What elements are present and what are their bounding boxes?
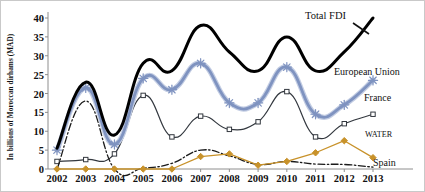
marker-diamond <box>197 153 203 159</box>
series-water <box>54 137 376 172</box>
marker-square <box>84 157 88 161</box>
plot-area: Total FDIEuropean UnionFranceWATERSpain <box>1 1 425 192</box>
marker-diamond <box>169 166 175 172</box>
marker-square <box>371 112 375 116</box>
marker-square <box>112 152 116 156</box>
series-label-water: WATER <box>365 130 393 139</box>
series-label-european-union: European Union <box>334 66 400 77</box>
marker-diamond <box>284 158 290 164</box>
marker-diamond <box>312 150 318 156</box>
series-label-total-fdi: Total FDI <box>305 10 346 21</box>
marker-diamond <box>83 166 89 172</box>
marker-square <box>256 120 260 124</box>
marker-diamond <box>255 162 261 168</box>
marker-square <box>170 135 174 139</box>
series-label-spain: Spain <box>373 157 396 168</box>
marker-square <box>198 114 202 118</box>
marker-square <box>227 127 231 131</box>
marker-diamond <box>341 137 347 143</box>
marker-square <box>285 89 289 93</box>
series-label-france: France <box>364 92 392 103</box>
marker-diamond <box>54 166 60 172</box>
marker-square <box>141 93 145 97</box>
marker-square <box>313 135 317 139</box>
marker-square <box>342 122 346 126</box>
fdi-line-chart: In billions of Moroccan dirhams (MAD) 05… <box>0 0 425 192</box>
series-european-union <box>52 59 377 155</box>
series-halo <box>57 63 373 150</box>
marker-diamond <box>140 166 146 172</box>
